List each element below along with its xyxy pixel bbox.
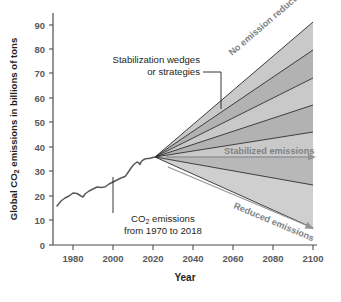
wedges-callout-line1: Stabilization wedges xyxy=(113,54,201,65)
x-tick-label-2080: 2080 xyxy=(262,253,283,264)
label-stabilized-emissions: Stabilized emissions xyxy=(224,146,314,156)
x-tick-label-2060: 2060 xyxy=(222,253,243,264)
y-tick-label-20: 20 xyxy=(34,191,45,202)
wedges-callout-line2: or strategies xyxy=(147,66,200,77)
y-tick-label-0: 0 xyxy=(40,240,45,251)
y-tick-label-30: 30 xyxy=(34,166,45,177)
history-callout-line2: from 1970 to 2018 xyxy=(124,225,202,236)
y-tick-labels: 90 80 70 60 50 40 30 20 10 0 xyxy=(34,20,45,251)
y-axis-title-pre: Global CO xyxy=(8,173,19,220)
x-tick-label-1980: 1980 xyxy=(62,253,83,264)
y-tick-label-50: 50 xyxy=(34,117,45,128)
y-tick-label-40: 40 xyxy=(34,142,45,153)
history-callout-post: emissions xyxy=(149,213,195,224)
y-tick-label-70: 70 xyxy=(34,68,45,79)
x-tick-labels: 1980 2000 2020 2040 2060 2080 2100 xyxy=(62,253,323,264)
y-tick-label-80: 80 xyxy=(34,44,45,55)
y-axis-title-post: emissions in billions of tons xyxy=(8,38,19,170)
x-tick-label-2000: 2000 xyxy=(102,253,123,264)
x-tick-label-2100: 2100 xyxy=(302,253,323,264)
chart-canvas: No emission reductions Stabilized emissi… xyxy=(0,0,341,302)
y-tick-label-10: 10 xyxy=(34,215,45,226)
x-tick-label-2040: 2040 xyxy=(182,253,203,264)
historical-emissions-curve xyxy=(57,157,155,206)
x-tick-label-2020: 2020 xyxy=(142,253,163,264)
history-callout-pre: CO xyxy=(131,213,145,224)
x-ticks xyxy=(73,245,313,250)
co2-emissions-wedge-chart: No emission reductions Stabilized emissi… xyxy=(0,0,341,302)
y-tick-label-90: 90 xyxy=(34,20,45,31)
x-axis-title: Year xyxy=(174,272,195,283)
y-tick-label-60: 60 xyxy=(34,93,45,104)
y-axis-title: Global CO2 emissions in billions of tons xyxy=(8,38,21,221)
